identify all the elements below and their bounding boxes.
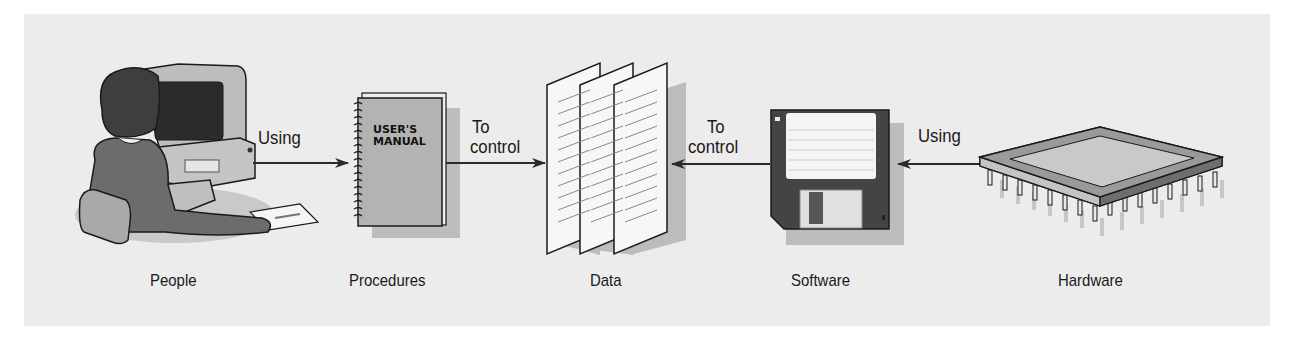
users-manual-icon: USER'S MANUAL (354, 93, 460, 238)
edge-label-procedures-data-line1: To (472, 117, 490, 137)
edge-label-software-data-line1: To (707, 117, 725, 137)
edge-label-software-data-line2: control (688, 137, 738, 157)
edge-label-hardware-software: Using (918, 126, 961, 146)
component-label-data: Data (590, 271, 622, 291)
microchip-icon (980, 127, 1224, 236)
floppy-disk-icon (771, 110, 904, 245)
component-label-software: Software (791, 271, 850, 291)
component-label-procedures: Procedures (349, 271, 426, 291)
manual-title-line2: MANUAL (373, 135, 426, 148)
component-label-hardware: Hardware (1058, 271, 1123, 291)
edge-label-procedures-data-line2: control (470, 137, 520, 157)
edge-label-people-procedures: Using (258, 128, 301, 148)
component-label-people: People (150, 271, 197, 291)
documents-icon (547, 63, 686, 255)
person-at-computer-icon (75, 64, 318, 244)
